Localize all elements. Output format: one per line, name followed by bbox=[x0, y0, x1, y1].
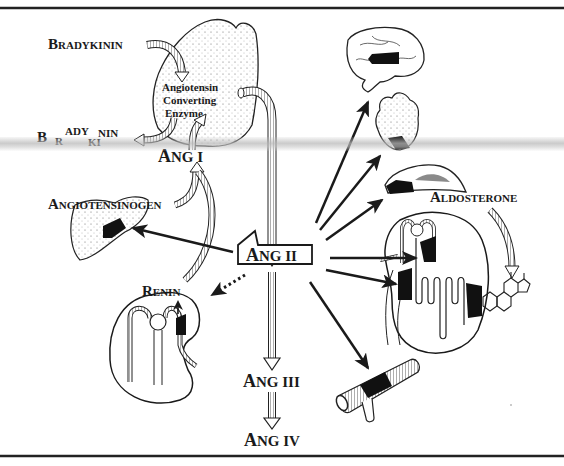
angiotensinogen-label: ANGIOTENSINOGEN bbox=[48, 196, 162, 212]
bradykinin-label: BRADYKININ bbox=[48, 36, 123, 52]
renin-kidney-icon bbox=[110, 293, 200, 403]
aldosterone-tube-arrow bbox=[490, 210, 519, 278]
ang4-label: ANG IV bbox=[244, 430, 300, 450]
svg-text:R: R bbox=[55, 135, 64, 147]
ang3-to-ang4-tube-arrow bbox=[264, 392, 280, 429]
ang2-to-ang3-tube-arrow bbox=[264, 272, 280, 370]
nephron-receptor-block-3 bbox=[466, 283, 482, 318]
ang2-to-adrenal-arrow bbox=[326, 200, 382, 240]
ang2-to-liver-arrow bbox=[133, 228, 233, 252]
svg-text:NIN: NIN bbox=[98, 127, 118, 139]
aldosterone-label: ALDOSTERONE bbox=[430, 189, 517, 205]
svg-text:ADY: ADY bbox=[65, 125, 89, 137]
ang3-label: ANG III bbox=[243, 371, 300, 391]
ang2-to-nephron-arrow-2 bbox=[326, 270, 396, 284]
ace-label-line1: Angiotensin bbox=[162, 81, 218, 93]
bradykinin-fragments-label: B R ADY KI NIN bbox=[37, 125, 118, 148]
blood-vessel-icon bbox=[334, 359, 419, 421]
svg-text:B: B bbox=[37, 129, 47, 145]
ras-diagram: Angiotensin Converting Enzyme BRADYKININ… bbox=[0, 0, 564, 466]
svg-text:ANG II: ANG II bbox=[246, 245, 297, 265]
heart-icon bbox=[376, 93, 419, 150]
nephron-kidney-icon bbox=[380, 212, 488, 353]
ang2-to-vessel-arrow bbox=[310, 282, 368, 368]
renin-label: RENIN bbox=[142, 283, 180, 299]
ace-label-line2: Converting bbox=[163, 94, 217, 106]
speck bbox=[510, 404, 512, 406]
steroid-molecule-icon bbox=[483, 272, 530, 311]
nephron-receptor-block-2 bbox=[398, 268, 412, 300]
adrenal-gland-icon bbox=[385, 165, 466, 194]
angiotensinogen-to-ang1-tube-arrow bbox=[175, 162, 204, 205]
renin-tube bbox=[185, 172, 212, 280]
ace-label-line3: Enzyme bbox=[165, 107, 203, 119]
ang2-inhibits-renin-dotted-arrow bbox=[212, 275, 245, 295]
brain-icon bbox=[347, 28, 424, 93]
